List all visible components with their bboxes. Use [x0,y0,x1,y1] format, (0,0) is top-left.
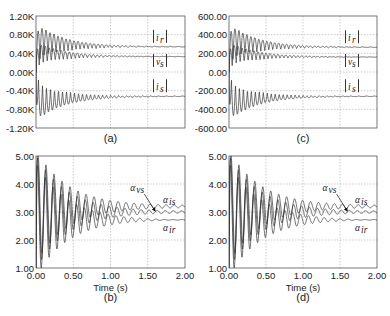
chart-b: 5.004.003.002.001.000.000.501.001.502.00… [16,151,195,304]
svg-text:i: i [156,82,159,92]
svg-text:s: s [352,84,356,94]
figure-canvas: 1.20K0.80K0.40K0.00K-0.40K-0.80K-1.20K(a… [0,0,390,316]
y-tick-label: -0.80K [6,104,35,115]
y-tick-label: 600.00 [198,11,227,22]
svg-text:ir: ir [361,225,368,235]
series-group [36,153,185,268]
series-group [229,153,377,268]
y-tick-label: 0.40K [9,48,34,59]
y-tick-label: 5.00 [209,151,228,162]
x-tick-label: 0.50 [64,270,83,281]
panel-caption: (d) [296,291,309,303]
x-tick-label: 2.00 [176,270,195,281]
x-tick-label: 1.00 [294,270,313,281]
y-tick-label: 4.00 [209,179,228,190]
svg-text:vs: vs [136,185,144,195]
x-tick-label: 0.50 [257,270,276,281]
y-tick-label: 3.00 [209,207,228,218]
series-label: is [345,79,359,94]
chart-a: 1.20K0.80K0.40K0.00K-0.40K-0.80K-1.20K(a… [6,11,185,145]
svg-text:vs: vs [329,185,337,195]
y-tick-label: 0.00 [209,67,228,78]
x-tick-label: 2.00 [368,270,387,281]
y-tick-label: 4.00 [16,179,35,190]
svg-text:ir: ir [169,225,176,235]
svg-text:i: i [348,82,351,92]
panel-caption: (c) [297,132,310,144]
y-tick-label: 1.20K [9,11,34,22]
y-tick-label: 0.00K [9,67,34,78]
y-tick-label: -0.40K [6,85,35,96]
svg-text:i: i [348,33,351,43]
y-tick-label: 0.80K [9,29,34,40]
y-tick-label: -200.00 [195,85,227,96]
y-tick-label: -600.00 [195,123,227,134]
svg-text:is: is [361,197,368,207]
chart-c: 600.00400.00200.000.00-200.00-400.00-600… [195,11,377,145]
x-tick-label: 1.50 [139,270,158,281]
svg-text:s: s [352,59,356,69]
y-tick-label: -400.00 [195,104,227,115]
series-label: ir [153,30,167,45]
panel-caption: (a) [104,132,117,144]
chart-d: 5.004.003.002.001.000.000.501.001.502.00… [209,151,387,304]
y-tick-label: 2.00 [209,235,228,246]
panel-caption: (b) [104,291,117,303]
y-tick-label: -1.20K [6,123,35,134]
svg-text:is: is [169,197,176,207]
y-tick-label: 3.00 [16,207,35,218]
x-tick-label: 0.00 [220,270,239,281]
series-label: is [153,79,167,94]
svg-text:s: s [160,84,164,94]
x-tick-label: 1.50 [331,270,350,281]
y-tick-label: 5.00 [16,151,35,162]
x-tick-label: 1.00 [101,270,120,281]
x-tick-label: 0.00 [27,270,46,281]
y-tick-label: 400.00 [198,29,227,40]
svg-text:i: i [156,33,159,43]
y-tick-label: 200.00 [198,48,227,59]
series-label: vs [345,54,359,69]
series-label: ir [345,30,359,45]
y-tick-label: 2.00 [16,235,35,246]
svg-text:r: r [160,35,164,45]
svg-text:r: r [352,35,356,45]
svg-text:s: s [160,59,164,69]
